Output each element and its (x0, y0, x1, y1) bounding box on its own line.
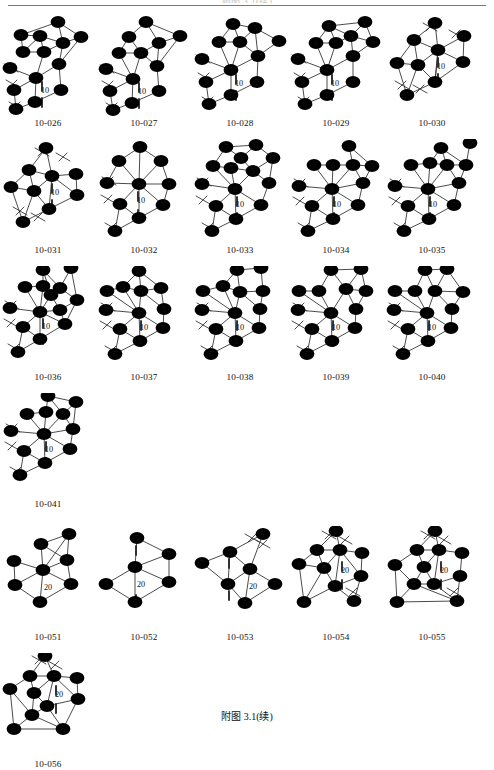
vertex-label: 5 (214, 325, 218, 334)
vertex-label: 7' (392, 182, 398, 191)
figure-cell: +66'675207'510-051 (1, 526, 95, 643)
graph-vertex: 5 (196, 285, 211, 297)
graph-vertex: 7' (16, 216, 31, 228)
vertex-label: 6' (359, 549, 365, 558)
vertex-label: 5 (32, 689, 36, 698)
vertex-label: 7' (352, 324, 358, 333)
vertex-label: 6' (11, 557, 17, 566)
vertex-label: 10 (429, 200, 437, 209)
graph-vertex: 7 (126, 73, 141, 85)
vertex-label: 5 (393, 287, 397, 296)
graph-diagram: 75565557'81057'56' (385, 139, 479, 243)
vertex-label: 7' (295, 55, 301, 64)
vertex-label: 7' (199, 306, 205, 315)
vertex-label: 7' (104, 179, 110, 188)
vertex-label: 5 (333, 582, 337, 591)
vertex-label: 5 (238, 38, 242, 47)
graph-vertex: 5 (41, 393, 56, 402)
vertex-label: 5 (23, 283, 27, 292)
vertex-label: 6 (363, 18, 367, 27)
graph-vertex: 8 (132, 178, 147, 190)
graph-vertex: 6 (34, 538, 49, 550)
vertex-label: 10 (235, 79, 243, 88)
vertex-label: 10 (236, 323, 244, 332)
graph-vertex: 5 (209, 200, 224, 212)
graph-vertex: 6' (256, 528, 271, 540)
vertex-label: 7' (7, 64, 13, 73)
graph-vertex: 5 (22, 164, 37, 176)
vertex-label: 8 (426, 185, 430, 194)
vertex-label: 5 (422, 563, 426, 572)
edge-tick-mark (103, 321, 111, 329)
graph-vertex: 7' (291, 53, 306, 65)
graph-vertex: 7' (195, 178, 210, 190)
vertex-label: 5 (12, 86, 16, 95)
graph-vertex: 5 (230, 266, 245, 276)
graph-vertex: 5 (56, 408, 71, 420)
vertex-label: 7 (34, 74, 38, 83)
graph-vertex: 5 (463, 139, 478, 149)
vertex-label: 5 (162, 305, 166, 314)
vertex-label: 7' (74, 191, 80, 200)
vertex-label: 6 (12, 725, 16, 734)
graph-vertex: 7' (58, 318, 73, 330)
graph-vertex: 5 (154, 155, 169, 167)
figure-label: 10-051 (34, 630, 61, 643)
graph-vertex: 7' (387, 304, 402, 316)
graph-vertex: 7 (346, 50, 361, 62)
graph-diagram: +66'675207'5 (1, 526, 95, 630)
graph-center-label: 10 (42, 322, 50, 331)
graph-vertex: 5 (246, 165, 261, 177)
vertex-label: 5 (58, 306, 62, 315)
graph-center-label: 20 (44, 583, 52, 592)
graph-diagram: 6'56'755107'57' (385, 12, 479, 116)
graph-diagram: 5555577'851057'56' (193, 266, 287, 370)
graph-vertex: 5 (28, 96, 43, 108)
graph-vertex: 7' (292, 180, 307, 192)
graph-vertex: 5 (233, 286, 248, 298)
graph-vertex: 6 (56, 723, 71, 735)
vertex-label: 5 (267, 179, 271, 188)
vertex-label: 5 (135, 534, 139, 543)
vertex-label: 8 (233, 185, 237, 194)
vertex-label: 6 (217, 38, 221, 47)
graph-vertex: 5 (157, 303, 172, 315)
vertex-label: 5 (47, 205, 51, 214)
graph-vertex: 6' (204, 348, 219, 360)
vertex-label: 5 (22, 447, 26, 456)
graph-vertex: + (62, 528, 77, 540)
graph-vertex: 5 (112, 155, 127, 167)
graph-diagram: 6565557'81057'56' (289, 139, 383, 243)
graph-diagram: 765656577'7107'556' (1, 12, 95, 116)
vertex-label: 6' (461, 32, 467, 41)
graph-vertex: 5 (7, 84, 22, 96)
graph-vertex: 5 (103, 85, 118, 97)
vertex-label: 6' (13, 105, 19, 114)
vertex-label: 7 (229, 66, 233, 75)
vertex-label: 6' (401, 227, 407, 236)
vertex-label: 5 (32, 187, 36, 196)
graph-diagram: 57556577'7107'556' (97, 12, 191, 116)
graph-vertex: 6 (359, 285, 374, 297)
vertex-label: 6' (302, 100, 308, 109)
graph-vertex: 7' (162, 576, 177, 588)
graph-vertex: 5 (401, 323, 416, 335)
graph-vertex: 7 (432, 544, 447, 556)
graph-diagram: 556557'851057'56' (97, 266, 191, 370)
vertex-label: 5 (105, 287, 109, 296)
vertex-label: 5 (412, 36, 416, 45)
vertex-label: 7' (68, 580, 74, 589)
graph-vertex: 7 (224, 64, 239, 76)
graph-vertex: 5 (226, 18, 241, 30)
vertex-label: 7 (224, 143, 228, 152)
vertex-label: 7' (7, 304, 13, 313)
graph-vertex: 5 (248, 22, 263, 34)
graph-vertex: 7 (243, 563, 258, 575)
graph-vertex: 5 (307, 159, 322, 171)
vertex-label: 6' (208, 350, 214, 359)
graph-vertex: 5 (38, 457, 53, 469)
graph-vertex: 6' (202, 98, 217, 110)
figure-cell: 6'676'65207'56'510-054 (289, 526, 383, 643)
graph-vertex: 7' (99, 304, 114, 316)
graph-vertex: 7 (36, 564, 51, 576)
